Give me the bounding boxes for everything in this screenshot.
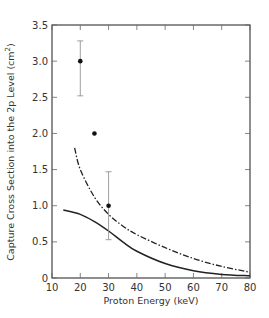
y-tick-label: 2.0 [32, 128, 48, 139]
x-tick-label: 60 [187, 282, 200, 293]
y-tick-label: 2.5 [32, 92, 48, 103]
solid-curve [63, 210, 250, 276]
data-series [63, 41, 250, 276]
x-axis-title: Proton Energy (keV) [104, 295, 199, 306]
x-tick-label: 20 [74, 282, 87, 293]
y-axis-ticks: 00.51.01.52.02.53.03.5 [32, 20, 250, 284]
y-tick-label: 0.5 [32, 236, 48, 247]
x-tick-label: 80 [244, 282, 257, 293]
x-tick-label: 40 [130, 282, 143, 293]
dash-dot-curve [75, 148, 250, 272]
y-tick-label: 3.5 [32, 20, 48, 31]
chart: 1020304050607080 00.51.01.52.02.53.03.5 … [0, 0, 269, 318]
x-tick-label: 30 [102, 282, 115, 293]
x-tick-label: 50 [159, 282, 172, 293]
x-tick-label: 10 [46, 282, 59, 293]
y-tick-label: 1.0 [32, 200, 48, 211]
data-point [92, 131, 97, 136]
x-tick-label: 70 [215, 282, 228, 293]
y-tick-label: 3.0 [32, 56, 48, 67]
data-point [106, 203, 111, 208]
y-tick-label: 0 [42, 273, 48, 284]
data-point [78, 59, 83, 64]
y-tick-label: 1.5 [32, 164, 48, 175]
y-axis-title: Capture Cross Section into the 2p Level … [4, 43, 16, 261]
